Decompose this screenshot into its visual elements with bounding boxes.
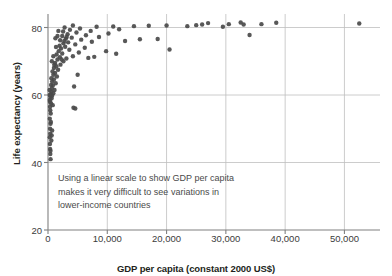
y-tick-label: 80 — [14, 22, 42, 33]
y-tick-label: 20 — [14, 225, 42, 236]
x-axis-title: GDP per capita (constant 2000 US$) — [0, 263, 392, 274]
x-tick-label: 10,000 — [93, 233, 122, 244]
data-points — [47, 20, 361, 161]
scatter-chart: 010,00020,00030,00040,00050,000 20406080… — [0, 0, 392, 276]
x-tick-label: 40,000 — [271, 233, 300, 244]
x-tick-label: 0 — [45, 233, 50, 244]
x-tick-label: 50,000 — [330, 233, 359, 244]
x-tick-label: 30,000 — [211, 233, 240, 244]
y-axis-title: Life expectancy (years) — [11, 44, 22, 184]
linear-scale-note: Using a linear scale to show GDP per cap… — [58, 172, 272, 213]
x-tick-label: 20,000 — [152, 233, 181, 244]
